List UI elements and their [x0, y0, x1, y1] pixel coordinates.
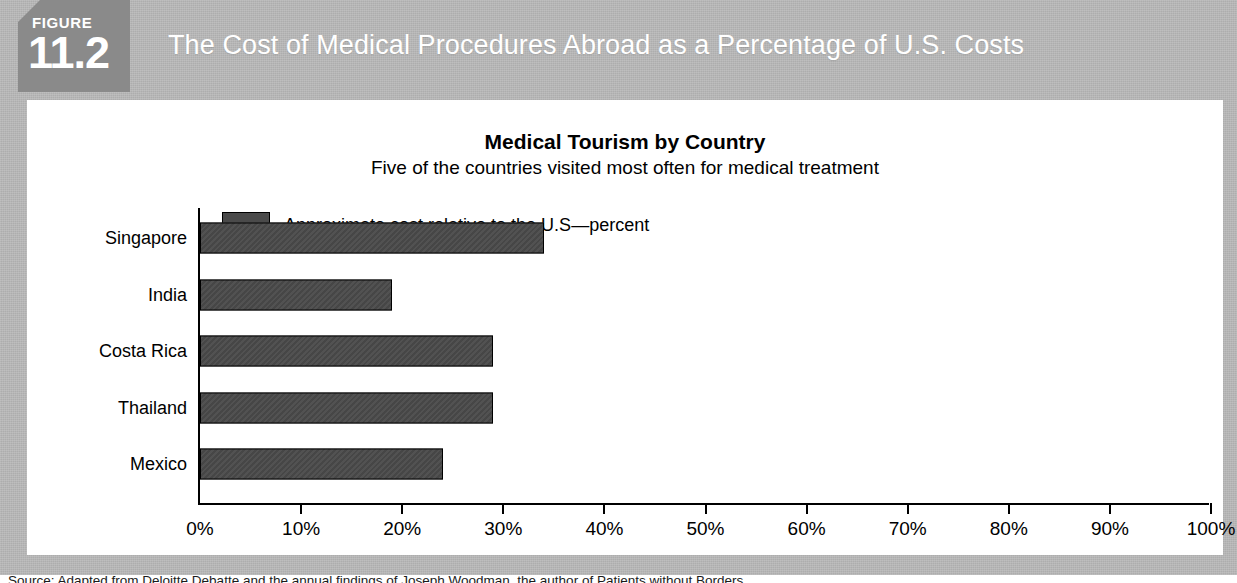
- bar: [200, 336, 493, 367]
- bar: [200, 392, 493, 423]
- x-axis-tick: [502, 503, 504, 514]
- x-axis-tick: [300, 503, 302, 514]
- bar: [200, 279, 392, 310]
- x-axis-tick: [1210, 503, 1212, 514]
- x-axis-tick: [1008, 503, 1010, 514]
- figure-badge-number: 11.2: [28, 30, 109, 75]
- bar-texture: [201, 224, 543, 253]
- x-axis-tick: [705, 503, 707, 514]
- figure-container: FIGURE 11.2 The Cost of Medical Procedur…: [0, 0, 1237, 583]
- x-axis-tick-label: 0%: [186, 518, 213, 540]
- figure-header-title: The Cost of Medical Procedures Abroad as…: [168, 30, 1024, 61]
- x-axis-tick: [603, 503, 605, 514]
- category-label: Mexico: [130, 454, 187, 475]
- x-axis-tick-label: 40%: [585, 518, 623, 540]
- x-axis-tick: [806, 503, 808, 514]
- x-axis-tick-label: 100%: [1187, 518, 1236, 540]
- x-axis-tick: [401, 503, 403, 514]
- bar-texture: [201, 450, 442, 479]
- chart-panel: Medical Tourism by Country Five of the c…: [27, 100, 1223, 555]
- figure-source: Source: Adapted from Deloitte Debatte an…: [8, 573, 1237, 583]
- plot-area: SingaporeIndiaCosta RicaThailandMexico0%…: [27, 100, 1223, 555]
- x-axis-line: [198, 503, 1209, 505]
- x-axis-tick: [907, 503, 909, 514]
- bar-texture: [201, 393, 492, 422]
- x-axis-tick-label: 80%: [990, 518, 1028, 540]
- category-label: India: [148, 284, 187, 305]
- x-axis-tick-label: 30%: [484, 518, 522, 540]
- bar-texture: [201, 337, 492, 366]
- bar: [200, 449, 443, 480]
- bar-texture: [201, 280, 391, 309]
- x-axis-tick-label: 20%: [383, 518, 421, 540]
- x-axis-tick-label: 60%: [788, 518, 826, 540]
- x-axis-tick: [1109, 503, 1111, 514]
- category-label: Thailand: [118, 397, 187, 418]
- x-axis-tick-label: 70%: [889, 518, 927, 540]
- category-label: Singapore: [105, 228, 187, 249]
- bar: [200, 223, 544, 254]
- x-axis-tick-label: 10%: [282, 518, 320, 540]
- category-label: Costa Rica: [99, 341, 187, 362]
- figure-badge: FIGURE 11.2: [18, 0, 130, 92]
- x-axis-tick-label: 50%: [686, 518, 724, 540]
- figure-header: FIGURE 11.2 The Cost of Medical Procedur…: [0, 0, 1237, 92]
- x-axis-tick-label: 90%: [1091, 518, 1129, 540]
